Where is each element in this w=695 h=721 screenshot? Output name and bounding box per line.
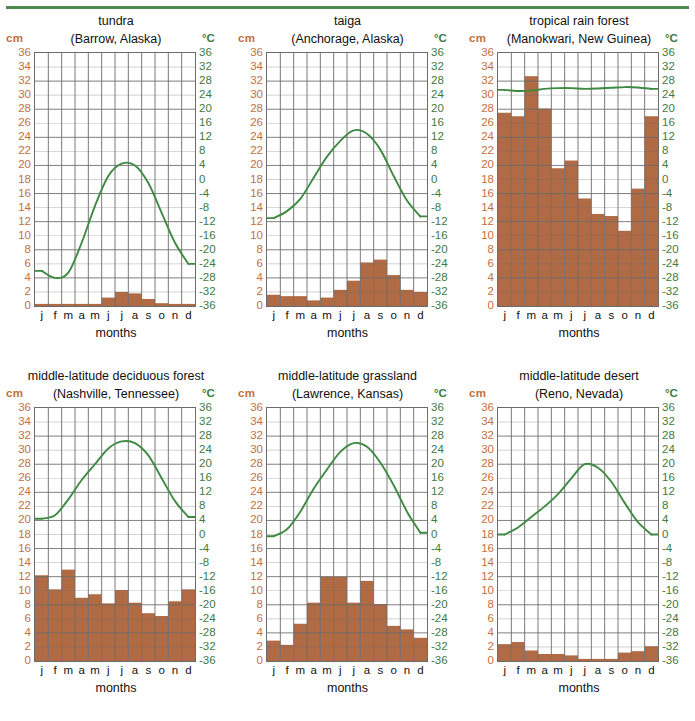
precipitation-bar [645,646,658,661]
precipitation-bar [142,299,155,306]
precipitation-bar [618,231,631,306]
temperature-axis-tick: -36 [199,300,216,312]
chart-subtitle: (Barrow, Alaska) [0,32,232,46]
month-tick-label: j [40,664,43,676]
month-tick-label: j [570,664,573,676]
precipitation-bar [88,304,101,306]
month-tick-label: s [377,664,383,676]
temperature-axis-tick: -24 [662,258,679,270]
precipitation-bar [128,293,141,306]
temperature-axis-tick: -8 [431,557,441,569]
precipitation-axis: 363432302826242220181614121086420 [232,52,263,307]
temperature-axis-tick: 4 [431,160,437,172]
temperature-axis-tick: 0 [199,174,205,186]
precipitation-bar [75,304,88,306]
temperature-axis-tick: -12 [199,571,216,583]
precipitation-axis-tick: 34 [18,416,31,428]
month-tick-label: o [390,664,396,676]
precipitation-axis-tick: 4 [488,627,494,639]
month-tick-label: m [90,664,100,676]
temperature-axis-tick: 8 [662,146,668,158]
temperature-axis-tick: 20 [662,458,675,470]
precipitation-axis-tick: 22 [481,501,494,513]
month-axis: jfmamjjasond [34,309,196,323]
month-tick-label: a [310,309,316,321]
month-tick-label: j [339,309,342,321]
month-tick-label: j [583,664,586,676]
precipitation-axis-tick: 24 [481,132,494,144]
month-tick-label: a [310,664,316,676]
temperature-axis-tick: 16 [431,118,444,130]
temperature-axis: 36322824201612840-4-8-12-16-20-24-28-32-… [431,52,465,307]
precipitation-bar [631,651,644,661]
plot-canvas [267,53,427,306]
chart-subtitle: (Anchorage, Alaska) [232,32,463,46]
temperature-axis-tick: -20 [662,244,679,256]
precipitation-axis-tick: 32 [18,430,31,442]
temperature-axis-tick: -8 [662,557,672,569]
precipitation-axis-tick: 0 [257,655,263,667]
precipitation-axis-tick: 14 [481,557,494,569]
temperature-axis-tick: 12 [662,132,675,144]
x-axis-label: months [232,326,463,340]
plot-area [266,407,428,662]
month-tick-label: o [390,309,396,321]
precipitation-axis-tick: 30 [18,89,31,101]
precipitation-axis-tick: 20 [481,515,494,527]
precipitation-axis-tick: 0 [488,300,494,312]
plot-area [497,407,659,662]
precipitation-axis-tick: 14 [250,557,263,569]
temperature-axis-tick: -16 [431,585,448,597]
precipitation-bar [48,589,61,661]
precipitation-axis-tick: 4 [25,272,31,284]
temperature-axis-tick: -8 [431,202,441,214]
temperature-axis-tick: -8 [199,557,209,569]
precipitation-axis-tick: 6 [488,258,494,270]
temperature-axis-tick: 24 [662,444,675,456]
chart-subtitle: (Lawrence, Kansas) [232,387,463,401]
temperature-axis-tick: -4 [431,543,441,555]
month-tick-label: a [541,664,547,676]
month-tick-label: j [107,664,110,676]
month-tick-label: n [635,309,641,321]
month-tick-label: j [40,309,43,321]
precipitation-bar [155,303,168,306]
chart-subtitle: (Manokwari, New Guinea) [463,32,695,46]
month-tick-label: n [172,309,178,321]
precipitation-bar [347,603,360,661]
precipitation-bar [360,581,373,661]
temperature-axis-tick: 28 [431,430,444,442]
precipitation-bar [387,275,400,306]
precipitation-axis-tick: 32 [250,430,263,442]
month-tick-label: j [339,664,342,676]
temperature-axis-tick: -16 [662,585,679,597]
temperature-axis-tick: -32 [662,641,679,653]
temperature-axis-tick: 20 [199,103,212,115]
temperature-axis-tick: 12 [199,487,212,499]
month-tick-label: a [132,664,138,676]
precipitation-axis-tick: 22 [18,501,31,513]
temperature-axis-tick: 0 [431,529,437,541]
precipitation-axis-tick: 22 [481,146,494,158]
precipitation-bar [498,644,511,661]
precipitation-axis-tick: 2 [488,286,494,298]
month-tick-label: m [322,309,332,321]
temperature-axis-unit: °C [665,32,678,44]
temperature-axis-tick: -28 [662,272,679,284]
month-tick-label: m [64,664,74,676]
precipitation-axis-tick: 14 [481,202,494,214]
month-tick-label: a [78,664,84,676]
temperature-axis-tick: -36 [199,655,216,667]
month-tick-label: a [132,309,138,321]
precipitation-bar [320,298,333,306]
precipitation-axis-tick: 12 [18,571,31,583]
precipitation-axis: 363432302826242220181614121086420 [463,52,494,307]
temperature-axis-tick: -32 [431,286,448,298]
precipitation-axis-tick: 16 [250,188,263,200]
precipitation-axis-tick: 32 [481,430,494,442]
month-tick-label: o [158,664,164,676]
precipitation-axis-tick: 18 [250,529,263,541]
precipitation-axis-tick: 12 [481,571,494,583]
chart-title: middle-latitude desert [463,369,695,383]
precipitation-axis-tick: 22 [18,146,31,158]
